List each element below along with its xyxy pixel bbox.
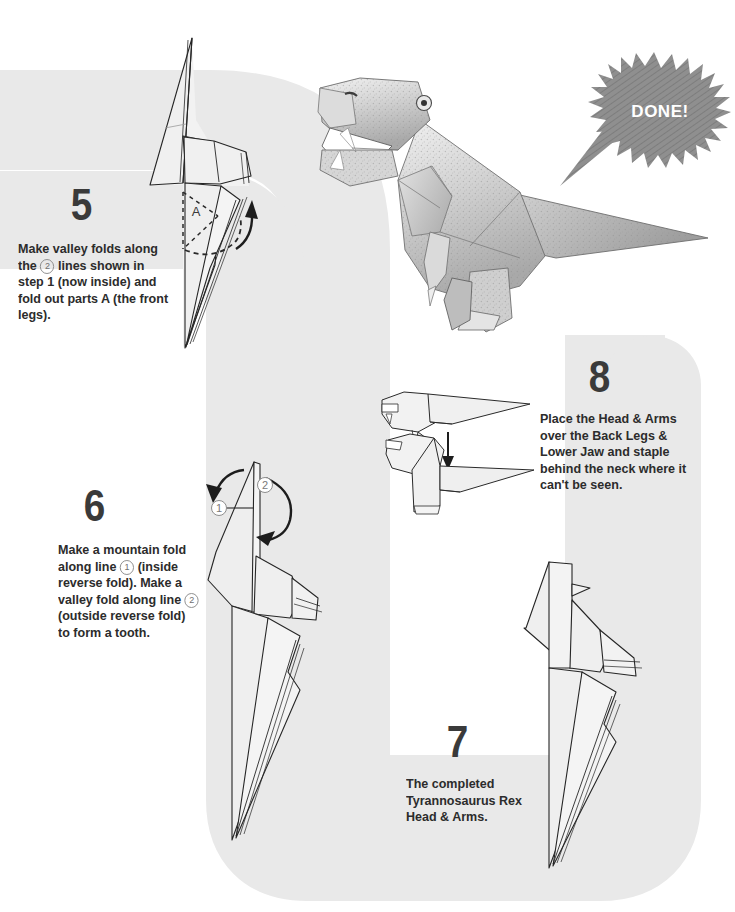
instruction-page: A — [0, 0, 735, 912]
step-6: 6 Make a mountain fold along line 1 (ins… — [18, 484, 188, 642]
step-5-number: 5 — [33, 183, 130, 227]
step-6-number: 6 — [32, 484, 155, 528]
step-5-inline-circle-2: 2 — [40, 259, 54, 274]
step-8-text: Place the Head & Arms over the Back Legs… — [540, 411, 706, 494]
step-5-text: Make valley folds along the 2 lines show… — [18, 241, 170, 324]
step-7: 7 The completed Tyrannosaurus Rex Head &… — [392, 720, 572, 826]
step8-piece-back-legs — [386, 434, 534, 514]
step-8: 8 Place the Head & Arms over the Back Le… — [540, 355, 730, 494]
step-5: 5 Make valley folds along the 2 lines sh… — [18, 183, 183, 324]
step-6-inline-circle-2: 2 — [185, 593, 199, 608]
step-6-text: Make a mountain fold along line 1 (insid… — [58, 542, 201, 642]
step-7-number: 7 — [400, 720, 514, 764]
step-6-text-run-3: (outside reverse fold) to form a tooth. — [58, 608, 185, 640]
step-6-inline-circle-1: 1 — [120, 560, 134, 575]
step-7-text: The completed Tyrannosaurus Rex Head & A… — [406, 776, 549, 826]
step-8-number: 8 — [552, 355, 645, 399]
